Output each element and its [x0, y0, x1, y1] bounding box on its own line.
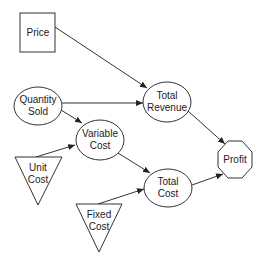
- edge-unit-cost-to-variable-cost: [36, 145, 75, 157]
- edge-quantity-sold-to-variable-cost: [61, 110, 82, 123]
- node-price-label: Price: [27, 27, 50, 38]
- node-fixed-cost-label-line2: Cost: [89, 221, 110, 232]
- node-fixed-cost-label-line1: Fixed: [87, 209, 111, 220]
- node-quantity-sold-label-line2: Sold: [28, 106, 48, 117]
- node-quantity-sold-label-line1: Quantity: [19, 94, 56, 105]
- node-total-cost-label-line2: Cost: [158, 188, 179, 199]
- node-unit-cost-label-line2: Cost: [28, 174, 49, 185]
- node-unit-cost: Unit Cost: [15, 157, 62, 205]
- edges: [36, 27, 225, 204]
- node-quantity-sold: Quantity Sold: [14, 87, 62, 125]
- node-unit-cost-label-line1: Unit: [29, 162, 47, 173]
- node-variable-cost: Variable Cost: [76, 120, 124, 160]
- node-variable-cost-label-line1: Variable: [82, 128, 118, 139]
- influence-diagram: Price Quantity Sold Total Revenue Variab…: [0, 0, 266, 265]
- node-fixed-cost: Fixed Cost: [76, 204, 122, 252]
- node-profit: Profit: [218, 141, 252, 178]
- node-total-revenue: Total Revenue: [143, 82, 191, 122]
- edge-total-cost-to-profit: [192, 174, 223, 185]
- edge-price-to-total-revenue: [55, 27, 147, 88]
- node-price: Price: [20, 13, 55, 52]
- node-total-revenue-label-line1: Total: [156, 90, 177, 101]
- edge-fixed-cost-to-total-cost: [98, 189, 144, 204]
- node-total-cost-label-line1: Total: [157, 176, 178, 187]
- node-variable-cost-label-line2: Cost: [90, 140, 111, 151]
- node-profit-label: Profit: [223, 154, 247, 165]
- edge-total-revenue-to-profit: [188, 111, 225, 144]
- node-total-revenue-label-line2: Revenue: [147, 102, 187, 113]
- node-total-cost: Total Cost: [144, 169, 192, 207]
- edge-variable-cost-to-total-cost: [118, 153, 150, 173]
